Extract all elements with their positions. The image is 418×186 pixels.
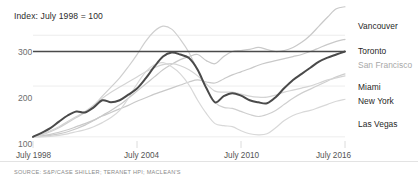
legend-item-new-york[interactable]: New York (358, 96, 394, 106)
legend-item-toronto[interactable]: Toronto (358, 46, 386, 56)
footer-divider (0, 161, 418, 162)
series-lines (33, 7, 345, 137)
y-tick-label-300: 300 (18, 47, 32, 57)
line-chart-plot (0, 0, 418, 186)
x-tick-marks (33, 141, 345, 148)
legend-item-miami[interactable]: Miami (358, 82, 381, 92)
series-line-vancouver (33, 7, 345, 137)
x-tick-label-july-2004: July 2004 (124, 151, 159, 160)
source-note: SOURCE: S&P/CASE SHILLER; TERANET HPI; M… (14, 169, 181, 175)
series-line-toronto (33, 39, 345, 137)
legend-item-las-vegas[interactable]: Las Vegas (358, 119, 398, 129)
x-tick-label-july-2010: July 2010 (224, 151, 259, 160)
x-tick-label-july-2016: July 2016 (316, 151, 351, 160)
series-line-san-francisco (33, 52, 345, 137)
legend-item-san-francisco[interactable]: San Francisco (358, 60, 412, 70)
x-tick-label-july-1998: July 1998 (16, 151, 51, 160)
y-tick-label-100: 100 (18, 139, 32, 149)
chart-figure: Index: July 1998 = 100 300 200 100 July … (0, 0, 418, 186)
legend-item-vancouver[interactable]: Vancouver (358, 21, 398, 31)
y-tick-label-200: 200 (18, 93, 32, 103)
